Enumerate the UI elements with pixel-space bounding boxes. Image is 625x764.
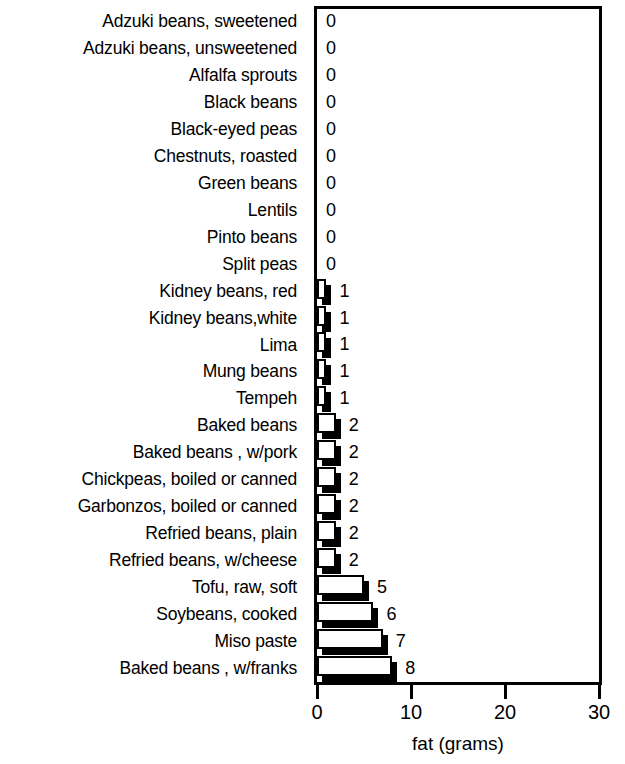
bar-face — [317, 548, 336, 568]
bar-value-label: 1 — [339, 333, 349, 355]
bar-row: 0 — [317, 63, 599, 90]
bar-row: 7 — [317, 628, 599, 655]
category-label: Adzuki beans, unsweetened — [0, 40, 297, 58]
bar-value-label: 0 — [326, 226, 336, 248]
bar-row: 0 — [317, 197, 599, 224]
bar — [317, 306, 326, 326]
bar-face — [317, 494, 336, 514]
bar-value-label: 0 — [326, 172, 336, 194]
category-label: Black beans — [0, 94, 297, 112]
plot-frame: 0000000000111112222225678 — [314, 6, 602, 685]
x-axis-tick-labels: 0102030 — [314, 700, 602, 724]
category-label: Green beans — [0, 175, 297, 193]
bar-row: 8 — [317, 655, 599, 682]
category-label: Chestnuts, roasted — [0, 148, 297, 166]
bar — [317, 548, 336, 568]
category-label: Black-eyed peas — [0, 121, 297, 139]
category-label: Soybeans, cooked — [0, 606, 297, 624]
category-labels-axis: Adzuki beans, sweetenedAdzuki beans, uns… — [0, 6, 306, 685]
bar-value-label: 7 — [396, 630, 406, 652]
bar-value-label: 0 — [326, 253, 336, 275]
bar-row: 2 — [317, 494, 599, 521]
bar-value-label: 2 — [349, 495, 359, 517]
bar-row: 2 — [317, 547, 599, 574]
bar-value-label: 0 — [326, 10, 336, 32]
x-axis-tick-label: 10 — [400, 700, 422, 724]
bar — [317, 359, 326, 379]
bar-row: 1 — [317, 359, 599, 386]
bar — [317, 279, 326, 299]
x-axis-tick — [504, 685, 507, 699]
bar-row: 0 — [317, 9, 599, 36]
bar-face — [317, 306, 326, 326]
bar-row: 1 — [317, 386, 599, 413]
bar-row: 1 — [317, 332, 599, 359]
category-label: Tofu, raw, soft — [0, 579, 297, 597]
category-label: Adzuki beans, sweetened — [0, 13, 297, 31]
x-axis-ticks — [314, 685, 602, 699]
bar-row: 0 — [317, 36, 599, 63]
bar-row: 2 — [317, 440, 599, 467]
fat-grams-bar-chart: Adzuki beans, sweetenedAdzuki beans, uns… — [0, 0, 625, 764]
bar-row: 2 — [317, 413, 599, 440]
bar — [317, 656, 392, 676]
bar-face — [317, 656, 392, 676]
bar — [317, 494, 336, 514]
category-label: Lentils — [0, 202, 297, 220]
bar — [317, 332, 326, 352]
category-label: Garbonzos, boiled or canned — [0, 498, 297, 516]
bar-face — [317, 332, 326, 352]
bar-row: 5 — [317, 574, 599, 601]
bar-face — [317, 521, 336, 541]
bar-row: 0 — [317, 224, 599, 251]
bar-row: 2 — [317, 467, 599, 494]
bar-value-label: 2 — [349, 549, 359, 571]
x-axis-tick-label: 30 — [588, 700, 610, 724]
bar-face — [317, 440, 336, 460]
bar-value-label: 1 — [339, 387, 349, 409]
category-label: Chickpeas, boiled or canned — [0, 471, 297, 489]
bar-value-label: 1 — [339, 360, 349, 382]
bar-face — [317, 386, 326, 406]
bar-row: 1 — [317, 278, 599, 305]
category-label: Baked beans , w/pork — [0, 444, 297, 462]
category-label: Miso paste — [0, 633, 297, 651]
bar — [317, 629, 383, 649]
bar — [317, 575, 364, 595]
bar — [317, 467, 336, 487]
bar-row: 0 — [317, 144, 599, 171]
bar-row: 0 — [317, 90, 599, 117]
x-axis-tick — [410, 685, 413, 699]
category-label: Mung beans — [0, 363, 297, 381]
bar-value-label: 0 — [326, 37, 336, 59]
category-label: Kidney beans,white — [0, 310, 297, 328]
bar-face — [317, 359, 326, 379]
x-axis-title: fat (grams) — [314, 732, 602, 756]
bar-row: 0 — [317, 117, 599, 144]
bar-value-label: 1 — [339, 280, 349, 302]
bar-face — [317, 467, 336, 487]
bar-value-label: 5 — [377, 576, 387, 598]
bar-row: 6 — [317, 601, 599, 628]
bar-value-label: 0 — [326, 118, 336, 140]
bar-face — [317, 279, 326, 299]
bar-value-label: 8 — [405, 657, 415, 679]
bar-value-label: 2 — [349, 468, 359, 490]
bar — [317, 521, 336, 541]
bar-value-label: 0 — [326, 199, 336, 221]
bar-row: 1 — [317, 305, 599, 332]
bar-value-label: 2 — [349, 441, 359, 463]
bar — [317, 602, 373, 622]
x-axis-tick-label: 0 — [311, 700, 322, 724]
bar-row: 0 — [317, 171, 599, 198]
x-axis-tick-label: 20 — [494, 700, 516, 724]
x-axis-tick — [316, 685, 319, 699]
bar-value-label: 2 — [349, 522, 359, 544]
bar-value-label: 1 — [339, 307, 349, 329]
bar-face — [317, 413, 336, 433]
category-label: Baked beans , w/franks — [0, 660, 297, 678]
bar-face — [317, 629, 383, 649]
bar-row: 0 — [317, 251, 599, 278]
bar-value-label: 0 — [326, 91, 336, 113]
bar-face — [317, 575, 364, 595]
